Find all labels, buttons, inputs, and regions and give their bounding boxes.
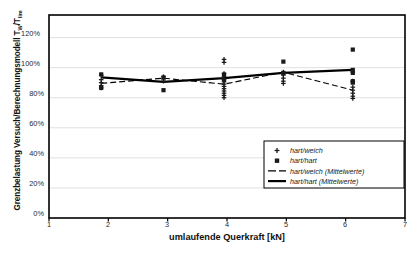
data-point-hart-weich bbox=[350, 96, 355, 101]
data-point-hart-hart bbox=[222, 72, 226, 76]
legend-marker-square bbox=[275, 159, 279, 163]
data-point-hart-hart bbox=[281, 71, 285, 75]
data-point-hart-hart bbox=[351, 81, 355, 85]
series-points bbox=[99, 47, 355, 100]
plot-area: hart/weichhart/harthart/weich (Mittelwer… bbox=[0, 0, 419, 253]
data-point-hart-hart bbox=[222, 78, 226, 82]
data-point-hart-hart bbox=[161, 75, 165, 79]
data-point-hart-hart bbox=[281, 60, 285, 64]
chart-figure: Grenzbelastung Versuch/Berechnungsmodell… bbox=[0, 0, 419, 253]
legend-label: hart/weich (Mittelwerte) bbox=[290, 167, 364, 176]
data-point-hart-weich bbox=[222, 95, 227, 100]
data-point-hart-hart bbox=[161, 88, 165, 92]
legend-label: hart/hart bbox=[290, 156, 318, 165]
legend-label: hart/weich bbox=[290, 146, 323, 155]
chart-legend: hart/weichhart/harthart/weich (Mittelwer… bbox=[264, 141, 404, 188]
data-point-hart-hart bbox=[99, 86, 103, 90]
series-lines bbox=[101, 70, 353, 90]
data-point-hart-weich bbox=[222, 60, 227, 65]
data-point-hart-hart bbox=[99, 72, 103, 76]
legend-label: hart/hart (Mittelwerte) bbox=[290, 177, 358, 186]
data-point-hart-hart bbox=[351, 71, 355, 75]
data-point-hart-weich bbox=[281, 81, 286, 86]
data-point-hart-hart bbox=[351, 47, 355, 51]
